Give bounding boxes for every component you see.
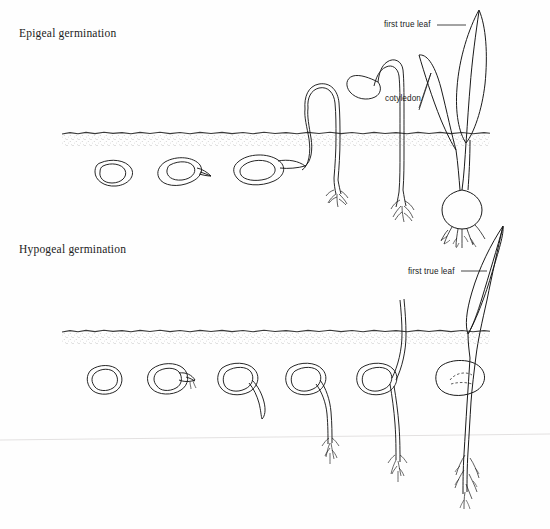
soil-line-hypogeal	[62, 330, 490, 345]
section-title-epigeal: Epigeal germination	[19, 27, 116, 39]
leader-lines-epigeal	[419, 25, 466, 110]
epigeal-stage-2-radicle-emerging	[158, 158, 211, 186]
root-hairs-stage-5	[391, 200, 414, 222]
hypogeal-stage-2-radicle-emerging	[148, 364, 197, 394]
label-first-true-leaf-hypogeal: first true leaf	[408, 267, 455, 276]
label-cotyledon-epigeal: cotyledon	[385, 94, 421, 103]
soil-line-epigeal	[62, 132, 490, 147]
epigeal-stage-6-seedling	[419, 10, 486, 248]
root-hairs-hypogeal-5	[388, 455, 407, 482]
artifact-scan-line	[0, 434, 550, 440]
hypogeal-stage-1-dormant-seed	[87, 366, 122, 395]
hypogeal-stage-3-radicle-descends	[218, 363, 265, 419]
epigeal-stage-1-dormant-seed	[95, 160, 133, 186]
root-system-stage-6	[441, 225, 485, 248]
root-hairs-stage-4	[326, 190, 348, 207]
section-title-hypogeal: Hypogeal germination	[19, 243, 126, 255]
hypogeal-stage-5-epicotyl-emerges	[357, 299, 407, 482]
label-first-true-leaf-epigeal: first true leaf	[384, 20, 431, 29]
germination-diagram: Epigeal germination Hypogeal germination…	[0, 0, 550, 529]
root-hairs-hypogeal-4	[322, 438, 339, 464]
hypogeal-stage-4-root-elongation	[286, 363, 339, 464]
germination-illustration	[0, 0, 550, 529]
